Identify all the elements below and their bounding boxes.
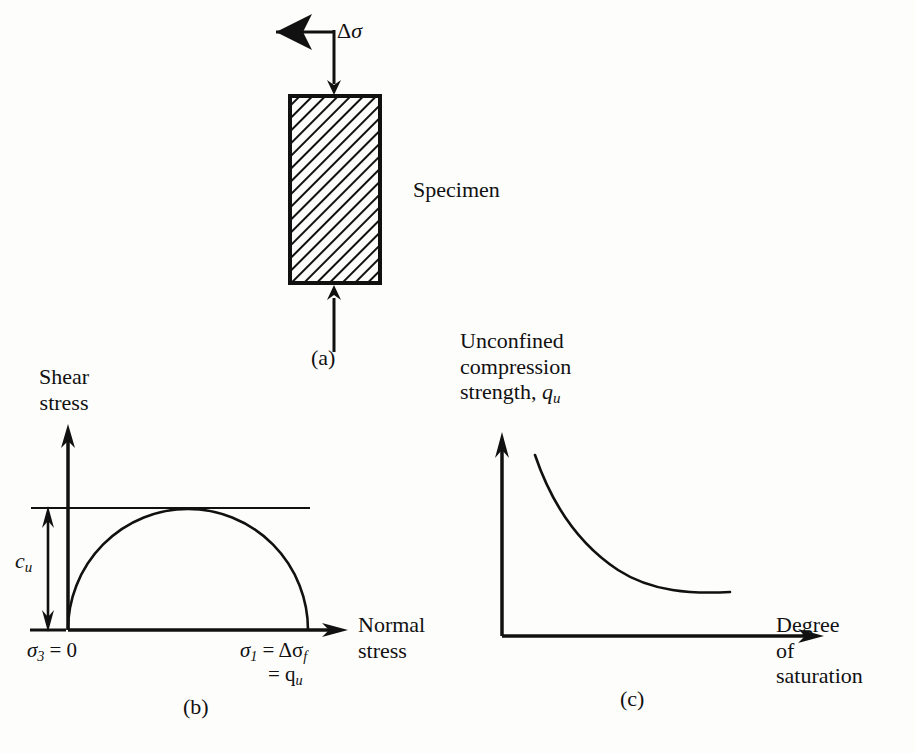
degree-of-saturation-axis-label: Degree of saturation [776, 612, 863, 689]
panel-c-qu-saturation-plot [495, 432, 824, 643]
reaction-arrow-up-head [327, 285, 341, 300]
shear-stress-axis-label: Shear stress [39, 364, 89, 415]
sigma1-eq: = Δσ [263, 638, 304, 662]
qu-decay-curve [535, 455, 730, 593]
qu-symbol: q [542, 379, 553, 404]
panel-b-mohr-circle-plot [30, 424, 348, 637]
sigma3-subscript: 3 [37, 648, 44, 664]
qu-eq: = q [268, 662, 296, 686]
mohr-circle-semicircle [68, 509, 308, 630]
qu-axis-label: Unconfined compression strength, qu [460, 328, 571, 408]
qu-subscript: u [296, 672, 303, 688]
specimen-label: Specimen [413, 177, 500, 203]
normal-stress-line1: Normal [358, 612, 425, 638]
applied-stress-label: ΔΔσσ [337, 18, 362, 44]
specimen-rect [290, 96, 380, 283]
sigma3-value: = 0 [50, 638, 78, 662]
sigma1-symbol: σ [240, 638, 250, 662]
normal-stress-axis-label: Normal stress [358, 612, 425, 663]
figure-page: ΔΔσσ Specimen (a) Shear stress cu σ3= 0 … [0, 0, 915, 753]
degree-line1: Degree [776, 612, 863, 638]
sigma3-origin-label: σ3= 0 [27, 638, 77, 665]
panel-a-specimen-diagram [276, 30, 380, 352]
qu-label-line2: compression [460, 354, 571, 380]
sigma1-failure-label-line2: = qu [268, 662, 303, 689]
panel-b-caption: (b) [183, 694, 209, 720]
sigma3-symbol: σ [27, 638, 37, 662]
degree-line3: saturation [776, 663, 863, 689]
qu-label-line3: strength, qu [460, 379, 571, 408]
panel-c-caption: (c) [620, 686, 644, 712]
sigma1-eq-subscript: f [303, 648, 307, 664]
shear-stress-line1: Shear [39, 364, 89, 390]
sigma1-subscript: 1 [250, 648, 257, 664]
qu-label-line1: Unconfined [460, 328, 571, 354]
qu-symbol-subscript: u [553, 390, 560, 406]
normal-stress-line2: stress [358, 638, 425, 664]
panel-a-caption: (a) [311, 345, 335, 371]
degree-line2: of [776, 638, 863, 664]
sigma1-failure-label: σ1= Δσf [240, 638, 307, 665]
cu-symbol: c [15, 548, 25, 573]
cu-subscript: u [25, 559, 32, 575]
cohesion-cu-label: cu [15, 548, 32, 577]
qu-label-line3-text: strength, [460, 379, 542, 404]
shear-stress-line2: stress [39, 390, 89, 416]
